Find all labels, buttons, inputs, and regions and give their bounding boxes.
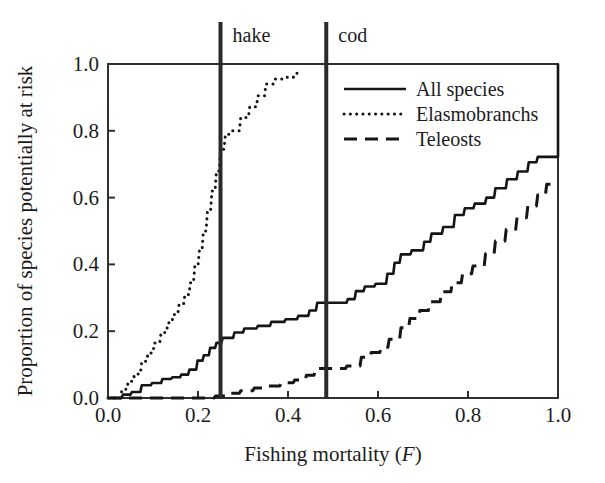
reference-label-cod: cod: [338, 24, 367, 46]
y-tick-label-3: 0.6: [73, 186, 99, 210]
x-axis-title: Fishing mortality (F): [244, 442, 421, 466]
x-axis-title-close: ): [415, 442, 422, 466]
y-tick-label-0: 0.0: [73, 386, 99, 410]
y-tick-label-5: 1.0: [73, 52, 99, 76]
series-line-teleosts: [108, 184, 558, 398]
x-tick-label-1: 0.2: [185, 403, 211, 427]
legend-label-all-species: All species: [416, 78, 505, 101]
y-tick-label-1: 0.2: [73, 319, 99, 343]
legend-label-teleosts: Teleosts: [416, 128, 481, 150]
y-tick-label-2: 0.4: [73, 252, 100, 276]
svg-text:Fishing mortality (F): Fishing mortality (F): [244, 442, 421, 466]
figure-container: 0.0 0.2 0.4 0.6 0.8 1.0 0.0 0.2 0.4 0.6 …: [0, 0, 605, 483]
x-axis-tick-labels: 0.0 0.2 0.4 0.6 0.8 1.0: [95, 403, 571, 427]
y-tick-label-4: 0.8: [73, 119, 99, 143]
x-axis-title-symbol: F: [401, 442, 415, 466]
x-tick-label-2: 0.4: [275, 403, 302, 427]
x-tick-label-3: 0.6: [365, 403, 391, 427]
reference-label-hake: hake: [233, 24, 271, 46]
y-axis-title: Proportion of species potentially at ris…: [13, 65, 37, 396]
x-axis-title-text: Fishing mortality (: [244, 442, 402, 466]
y-axis-ticks: [108, 64, 115, 398]
legend-label-elasmobranchs: Elasmobranchs: [416, 103, 538, 125]
chart-svg: 0.0 0.2 0.4 0.6 0.8 1.0 0.0 0.2 0.4 0.6 …: [0, 0, 605, 483]
x-tick-label-5: 1.0: [545, 403, 571, 427]
legend: All species Elasmobranchs Teleosts: [336, 72, 554, 154]
y-axis-tick-labels: 0.0 0.2 0.4 0.6 0.8 1.0: [73, 52, 100, 410]
x-tick-label-4: 0.8: [455, 403, 481, 427]
series-line-elasmobranchs: [108, 73, 301, 398]
